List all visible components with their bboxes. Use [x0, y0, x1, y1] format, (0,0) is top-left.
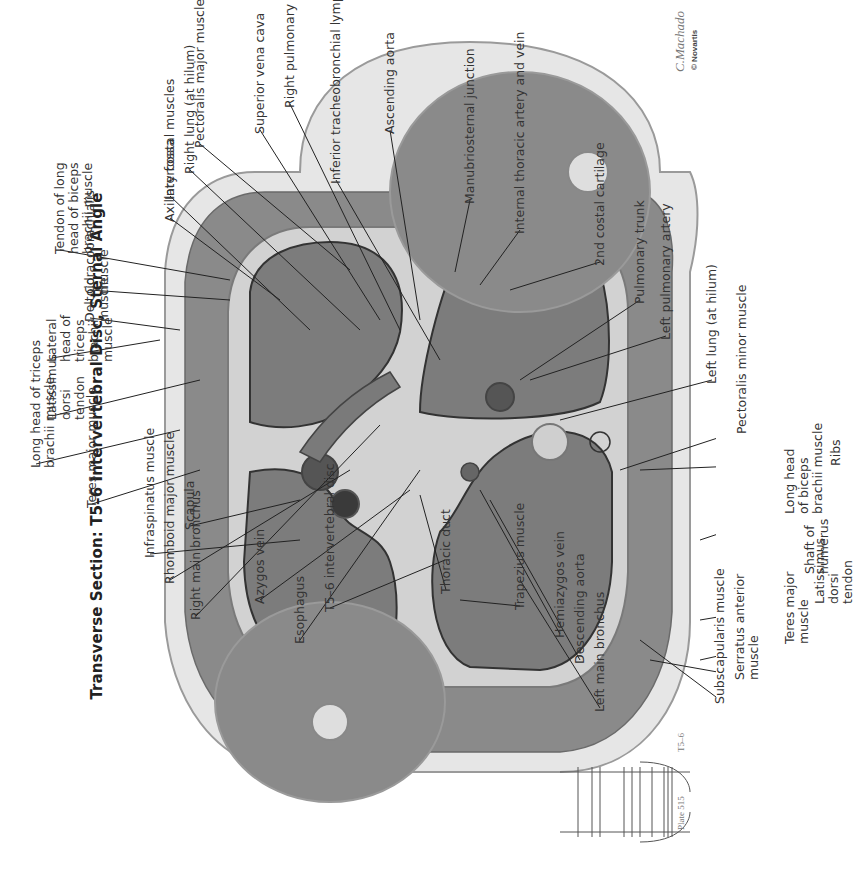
copyright-notice: © Novartis	[690, 30, 699, 70]
label-hemiazygos-vein: Hemiazygos vein	[553, 531, 567, 638]
label-inferior-tracheobronchial-lymph-nodes: Inferior tracheobronchial lymph nodes	[329, 0, 343, 184]
label-internal-thoracic-artery-and-vein: Internal thoracic artery and vein	[513, 32, 527, 234]
label-2nd-costal-cartilage: 2nd costal cartilage	[593, 142, 607, 266]
vertebral-body	[532, 424, 568, 460]
label-thoracic-duct: Thoracic duct	[439, 509, 453, 594]
label-ribs: Ribs	[829, 439, 843, 466]
label-t5-6-intervertebral-disc: T5–6 intervertebral disc	[323, 463, 337, 612]
label-azygos-vein: Azygos vein	[253, 529, 267, 604]
orientation-inset	[560, 762, 690, 842]
label-tendon-of-long-head-of-biceps-brachii-muscle: Tendon of long head of biceps brachii mu…	[53, 162, 95, 254]
plate-number: Plate 515	[676, 796, 686, 830]
label-long-head-of-biceps-brachii-muscle: Long head of biceps brachii muscle	[783, 423, 825, 514]
label-right-pulmonary-artery: Right pulmonary artery	[283, 0, 297, 108]
label-trapezius-muscle: Trapezius muscle	[513, 503, 527, 610]
label-manubriosternal-junction: Manubriosternal junction	[463, 48, 477, 204]
label-teres-major-muscle-top: Teres major muscle	[783, 572, 811, 644]
label-infraspinatus-muscle: Infraspinatus muscle	[143, 428, 157, 558]
label-teres-major-muscle-bottom: Teres major muscle	[85, 387, 99, 508]
label-intercostal-muscles: Intercostal muscles	[163, 79, 177, 200]
descending-aorta-vessel	[486, 383, 514, 411]
esophagus-vessel	[461, 463, 479, 481]
label-descending-aorta: Descending aorta	[573, 553, 587, 664]
label-pulmonary-trunk: Pulmonary trunk	[633, 200, 647, 304]
artist-signature: C.Machado	[672, 11, 688, 72]
leader-line-long-head-of-triceps-brachii-muscle	[36, 430, 180, 464]
humerus-bone-lower	[312, 704, 348, 740]
label-latissimus-dorsi-tendon-bottom: Latissimus dorsi tendon	[45, 354, 87, 420]
vertebral-level: T5–6	[676, 733, 686, 752]
label-pectoralis-major-muscle: Pectoralis major muscle	[193, 0, 207, 148]
label-latissimus-dorsi-tendon-top: Latissimus dorsi tendon	[813, 538, 855, 604]
label-pectoralis-minor-muscle: Pectoralis minor muscle	[735, 285, 749, 434]
label-rhomboid-major-muscle: Rhomboid major muscle	[163, 432, 177, 584]
label-left-main-bronchus: Left main bronchus	[593, 592, 607, 712]
label-serratus-anterior-muscle: Serratus anterior muscle	[733, 574, 761, 680]
label-left-lung-at-hilum: Left lung (at hilum)	[705, 264, 719, 384]
label-superior-vena-cava: Superior vena cava	[253, 13, 267, 134]
leader-line-long-head-of-biceps-brachii-muscle	[700, 510, 716, 540]
label-left-pulmonary-artery: Left pulmonary artery	[659, 203, 673, 340]
label-subscapularis-muscle: Subscapularis muscle	[713, 568, 727, 704]
label-scapula: Scapula	[183, 481, 197, 530]
arm-section-lower	[215, 602, 445, 802]
label-ascending-aorta: Ascending aorta	[383, 32, 397, 134]
label-esophagus: Esophagus	[293, 576, 307, 644]
